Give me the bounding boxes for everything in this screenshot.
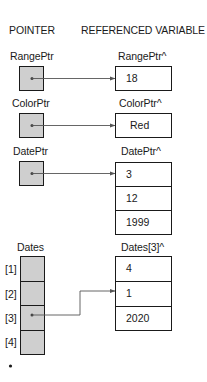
value-cell: 12 [116, 187, 171, 211]
target-label-dates3: Dates[3]^ [121, 241, 164, 253]
value-cell: 3 [116, 163, 171, 187]
referenced-variable-dateptr: 3 12 1999 [115, 162, 172, 235]
pointer-box-rangeptr [19, 66, 44, 91]
target-label-rangeptr: RangePtr^ [118, 50, 166, 62]
target-label-dateptr: DatePtr^ [121, 145, 161, 157]
value-cell: 2020 [116, 307, 171, 332]
array-index-4: [4] [5, 336, 17, 348]
array-index-2: [2] [5, 288, 17, 300]
pointer-label-rangeptr: RangePtr [10, 50, 54, 62]
array-cell [21, 282, 44, 307]
array-index-3: [3] [5, 312, 17, 324]
referenced-variable-dates3: 4 1 2020 [115, 256, 172, 331]
value-cell: 18 [116, 67, 171, 91]
array-index-1: [1] [5, 263, 17, 275]
referenced-variable-rangeptr: 18 [115, 66, 172, 91]
array-cell [21, 306, 44, 331]
array-label-dates: Dates [17, 241, 44, 253]
referenced-variable-column-header: REFERENCED VARIABLE [81, 24, 205, 36]
pointer-array-dates [20, 256, 45, 355]
value-cell: 1 [116, 282, 171, 307]
pointer-box-colorptr [19, 113, 44, 138]
referenced-variable-colorptr: Red [115, 113, 172, 138]
bullet-dot [9, 364, 12, 367]
value-cell: 4 [116, 257, 171, 282]
pointer-box-dateptr [19, 161, 44, 186]
pointer-label-dateptr: DatePtr [13, 145, 48, 157]
target-label-colorptr: ColorPtr^ [119, 97, 162, 109]
value-cell: 1999 [116, 211, 171, 235]
value-cell: Red [116, 114, 171, 138]
array-cell [21, 257, 44, 282]
array-cell [21, 331, 44, 356]
pointer-label-colorptr: ColorPtr [12, 97, 50, 109]
pointer-column-header: POINTER [9, 24, 55, 36]
